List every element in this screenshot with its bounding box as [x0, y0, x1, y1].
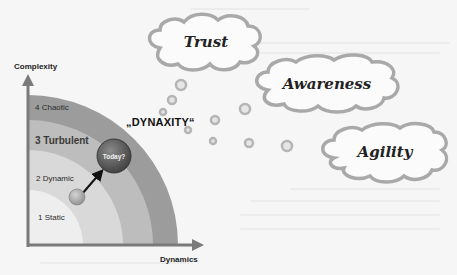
y-axis-label: Complexity	[14, 62, 57, 71]
cloud-label-trust: Trust	[184, 33, 228, 51]
thought-bubble	[210, 138, 216, 144]
origin-state-ball	[69, 189, 85, 205]
zone-label-dynamic: 2 Dynamic	[36, 174, 74, 183]
dynaxity-title: „DYNAXITY“	[126, 116, 195, 128]
thought-bubble	[211, 116, 219, 124]
thought-bubble	[245, 139, 253, 147]
y-axis-arrowhead	[22, 74, 34, 86]
today-label: Today?	[103, 153, 126, 160]
thought-bubble	[168, 96, 176, 104]
thought-bubble	[282, 141, 292, 151]
thought-bubble	[240, 104, 250, 114]
thought-bubble	[160, 109, 166, 115]
dynaxity-diagram: Complexity Dynamics 4 Chaotic 3 Turbulen…	[0, 0, 457, 275]
zone-label-static: 1 Static	[38, 213, 65, 222]
zone-label-turbulent: 3 Turbulent	[35, 135, 89, 146]
x-axis-arrowhead	[192, 239, 204, 251]
thought-bubble	[176, 80, 186, 90]
cloud-label-awareness: Awareness	[283, 75, 371, 93]
cloud-label-agility: Agility	[358, 143, 413, 161]
x-axis-label: Dynamics	[160, 255, 198, 264]
zone-label-chaotic: 4 Chaotic	[35, 103, 69, 112]
